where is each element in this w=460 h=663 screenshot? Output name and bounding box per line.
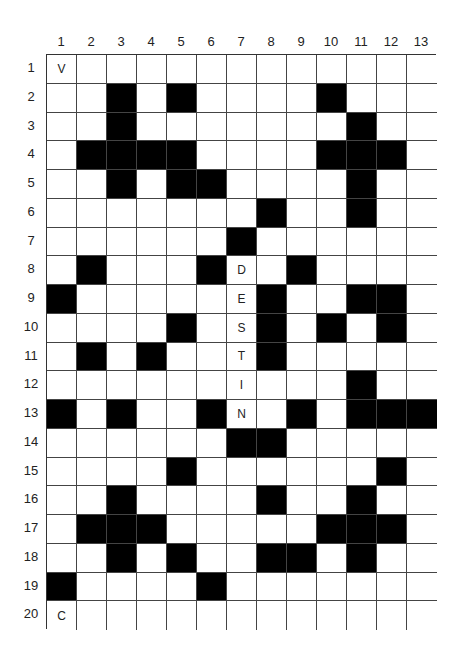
grid-cell[interactable]	[167, 429, 197, 458]
grid-cell[interactable]	[197, 141, 227, 170]
grid-cell[interactable]	[227, 170, 257, 199]
grid-cell[interactable]	[197, 55, 227, 84]
grid-cell[interactable]	[377, 256, 407, 285]
grid-cell[interactable]	[77, 113, 107, 142]
grid-cell[interactable]	[47, 486, 77, 515]
grid-cell[interactable]	[77, 84, 107, 113]
grid-cell[interactable]	[77, 573, 107, 602]
grid-cell[interactable]	[287, 429, 317, 458]
grid-cell[interactable]	[137, 544, 167, 573]
grid-cell[interactable]	[347, 84, 377, 113]
grid-cell[interactable]	[377, 429, 407, 458]
grid-cell[interactable]	[287, 458, 317, 487]
grid-cell[interactable]	[257, 515, 287, 544]
grid-cell[interactable]	[317, 601, 347, 630]
grid-cell[interactable]	[227, 55, 257, 84]
grid-cell[interactable]	[407, 228, 437, 257]
grid-cell[interactable]	[227, 601, 257, 630]
grid-cell[interactable]	[47, 256, 77, 285]
grid-cell[interactable]	[197, 601, 227, 630]
grid-cell[interactable]	[287, 371, 317, 400]
grid-cell[interactable]	[197, 429, 227, 458]
grid-cell[interactable]	[287, 573, 317, 602]
grid-cell[interactable]	[47, 228, 77, 257]
grid-cell[interactable]	[287, 170, 317, 199]
grid-cell[interactable]	[407, 601, 437, 630]
grid-cell[interactable]	[47, 371, 77, 400]
grid-cell[interactable]	[77, 429, 107, 458]
grid-cell[interactable]	[137, 170, 167, 199]
grid-cell[interactable]	[227, 141, 257, 170]
grid-cell[interactable]: N	[227, 400, 257, 429]
grid-cell[interactable]	[257, 84, 287, 113]
grid-cell[interactable]	[287, 199, 317, 228]
grid-cell[interactable]	[317, 343, 347, 372]
grid-cell[interactable]	[107, 199, 137, 228]
grid-cell[interactable]	[47, 141, 77, 170]
grid-cell[interactable]	[407, 170, 437, 199]
grid-cell[interactable]	[197, 84, 227, 113]
grid-cell[interactable]	[197, 343, 227, 372]
grid-cell[interactable]	[317, 285, 347, 314]
grid-cell[interactable]	[407, 429, 437, 458]
grid-cell[interactable]	[137, 285, 167, 314]
grid-cell[interactable]	[137, 400, 167, 429]
grid-cell[interactable]	[257, 55, 287, 84]
grid-cell[interactable]	[287, 55, 317, 84]
grid-cell[interactable]: E	[227, 285, 257, 314]
grid-cell[interactable]	[257, 458, 287, 487]
grid-cell[interactable]	[287, 515, 317, 544]
grid-cell[interactable]	[317, 544, 347, 573]
grid-cell[interactable]	[257, 170, 287, 199]
grid-cell[interactable]	[77, 55, 107, 84]
grid-cell[interactable]	[317, 400, 347, 429]
grid-cell[interactable]	[167, 400, 197, 429]
grid-cell[interactable]	[287, 84, 317, 113]
grid-cell[interactable]	[77, 228, 107, 257]
grid-cell[interactable]	[407, 343, 437, 372]
grid-cell[interactable]	[137, 429, 167, 458]
grid-cell[interactable]	[197, 544, 227, 573]
grid-cell[interactable]	[137, 199, 167, 228]
grid-cell[interactable]	[407, 544, 437, 573]
grid-cell[interactable]	[407, 515, 437, 544]
grid-cell[interactable]	[47, 515, 77, 544]
grid-cell[interactable]	[227, 544, 257, 573]
grid-cell[interactable]	[407, 573, 437, 602]
grid-cell[interactable]	[137, 55, 167, 84]
grid-cell[interactable]	[197, 314, 227, 343]
grid-cell[interactable]	[227, 458, 257, 487]
grid-cell[interactable]	[347, 55, 377, 84]
grid-cell[interactable]: D	[227, 256, 257, 285]
grid-cell[interactable]	[107, 429, 137, 458]
grid-cell[interactable]	[227, 515, 257, 544]
grid-cell[interactable]	[257, 400, 287, 429]
grid-cell[interactable]	[137, 228, 167, 257]
grid-cell[interactable]	[107, 371, 137, 400]
grid-cell[interactable]	[287, 228, 317, 257]
grid-cell[interactable]	[377, 84, 407, 113]
grid-cell[interactable]: I	[227, 371, 257, 400]
grid-cell[interactable]	[167, 55, 197, 84]
grid-cell[interactable]	[47, 199, 77, 228]
grid-cell[interactable]	[317, 113, 347, 142]
grid-cell[interactable]	[347, 343, 377, 372]
grid-cell[interactable]	[47, 84, 77, 113]
grid-cell[interactable]	[347, 314, 377, 343]
grid-cell[interactable]	[407, 458, 437, 487]
grid-cell[interactable]	[257, 113, 287, 142]
grid-cell[interactable]	[407, 199, 437, 228]
grid-cell[interactable]	[167, 256, 197, 285]
grid-cell[interactable]	[197, 458, 227, 487]
grid-cell[interactable]	[77, 458, 107, 487]
grid-cell[interactable]	[257, 371, 287, 400]
grid-cell[interactable]	[407, 314, 437, 343]
grid-cell[interactable]	[347, 601, 377, 630]
grid-cell[interactable]	[77, 170, 107, 199]
grid-cell[interactable]	[197, 486, 227, 515]
grid-cell[interactable]	[197, 113, 227, 142]
grid-cell[interactable]	[107, 343, 137, 372]
grid-cell[interactable]	[167, 228, 197, 257]
grid-cell[interactable]	[377, 371, 407, 400]
grid-cell[interactable]	[167, 113, 197, 142]
